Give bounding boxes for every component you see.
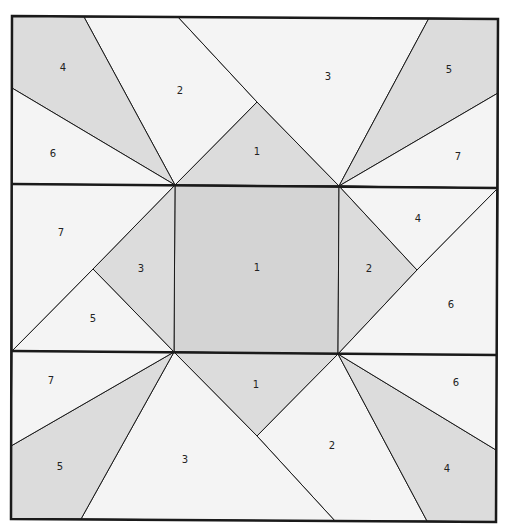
bottom-row-piece-label: 4 [444,463,450,474]
top-row-piece-label: 4 [60,62,66,73]
top-row-piece-label: 7 [455,151,461,162]
middle-row-piece-label: 2 [366,263,372,274]
top-row-piece-label: 1 [254,146,260,157]
bottom-row-piece-label: 6 [453,377,459,388]
middle-row-piece-label: 3 [138,263,144,274]
bottom-row-piece-label: 3 [182,454,188,465]
top-row-piece-label: 5 [446,64,452,75]
middle-row-piece-label: 4 [415,213,421,224]
bottom-row-piece-label: 5 [57,461,63,472]
bottom-row-piece-label: 1 [253,379,259,390]
quilt-block-diagram: 123456712345671234567 [0,0,508,531]
top-row-piece-label: 6 [50,148,56,159]
middle-row-piece-label: 1 [254,262,260,273]
top-row-piece-label: 2 [177,85,183,96]
middle-row-piece-label: 5 [90,313,96,324]
top-row-piece-label: 3 [325,71,331,82]
middle-row-piece-label: 6 [448,299,454,310]
middle-row-piece-label: 7 [58,227,64,238]
bottom-row-piece-label: 7 [48,375,54,386]
bottom-row-piece-label: 2 [329,440,335,451]
